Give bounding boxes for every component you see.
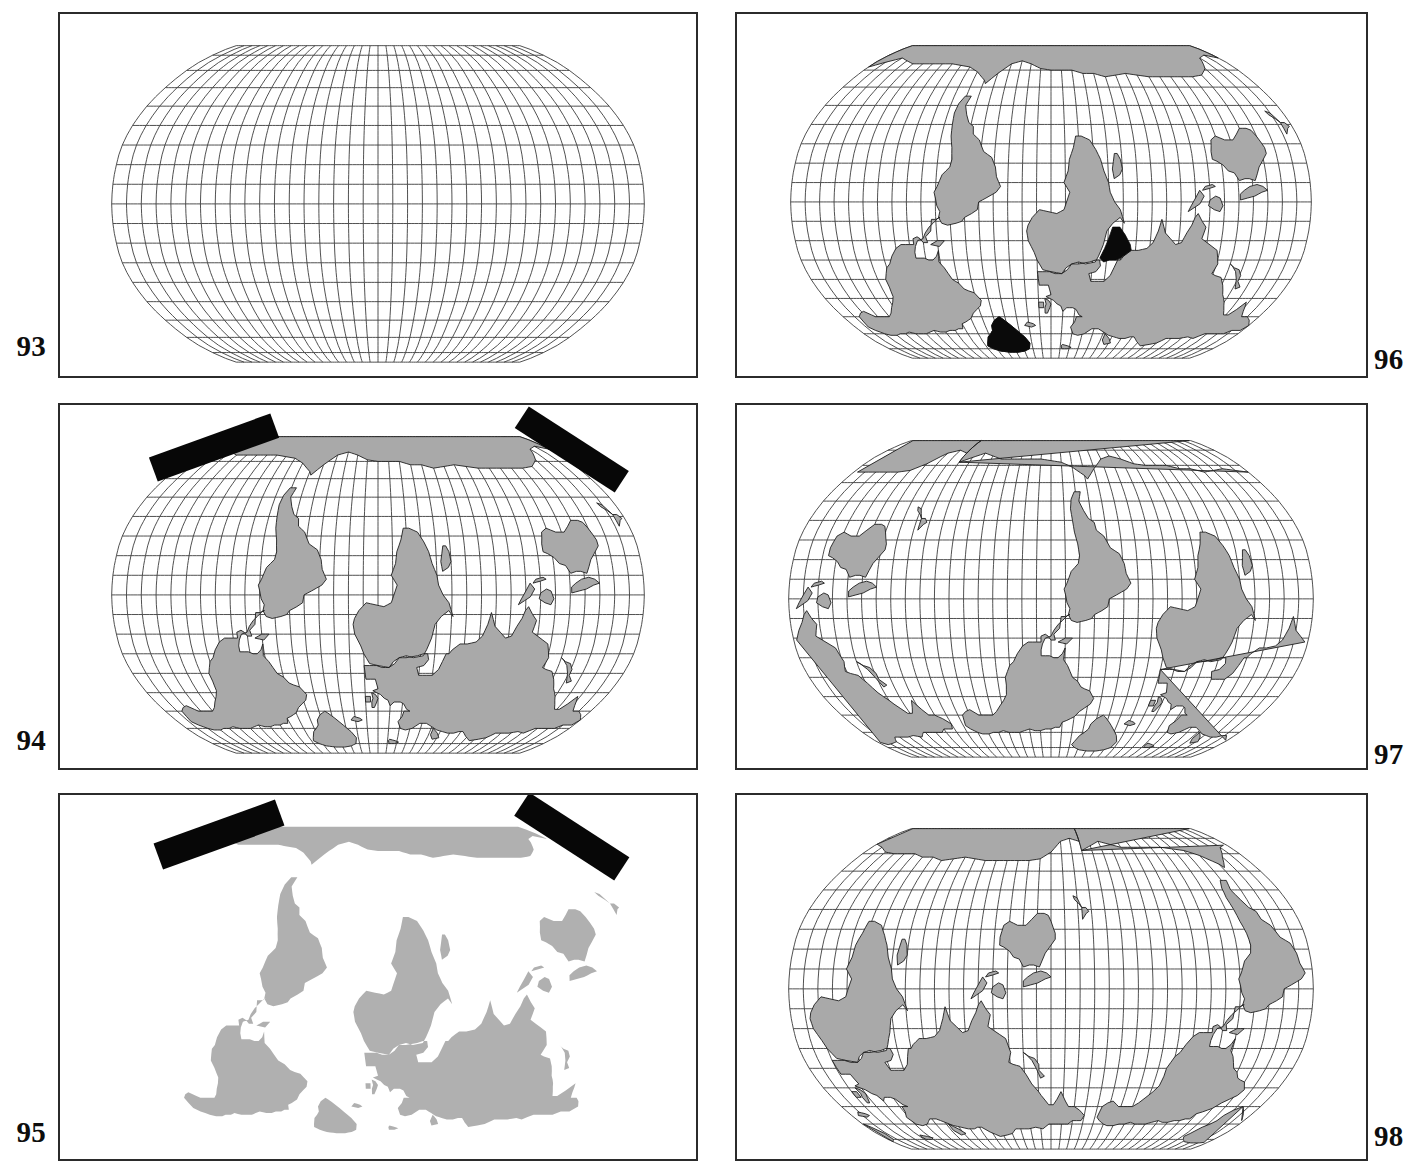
figure-panel-98 (735, 793, 1368, 1161)
figure-panel-94 (58, 403, 698, 770)
figure-panel-96 (735, 12, 1368, 378)
figure-number-98: 98 (1374, 1122, 1405, 1151)
land-silhouette-95 (184, 827, 619, 1134)
map-canvas-95 (60, 795, 696, 1159)
graticule-path (112, 46, 645, 363)
figure-number-97: 97 (1374, 740, 1405, 769)
map-canvas-98 (737, 795, 1366, 1159)
figure-plate: 93 96 94 97 95 (0, 0, 1405, 1176)
map-canvas-97 (737, 405, 1366, 768)
highlighted-region (988, 317, 1030, 352)
marker-bar (514, 795, 629, 880)
graticule-93 (112, 46, 645, 363)
figure-panel-93 (58, 12, 698, 378)
figure-number-93: 93 (0, 332, 46, 361)
figure-panel-95 (58, 793, 698, 1161)
figure-panel-97 (735, 403, 1368, 770)
map-canvas-96 (737, 14, 1366, 376)
figure-number-95: 95 (0, 1118, 46, 1147)
map-canvas-93 (60, 14, 696, 376)
figure-number-94: 94 (0, 726, 46, 755)
figure-number-96: 96 (1374, 345, 1405, 374)
map-canvas-94 (60, 405, 696, 768)
land-path (184, 827, 619, 1134)
